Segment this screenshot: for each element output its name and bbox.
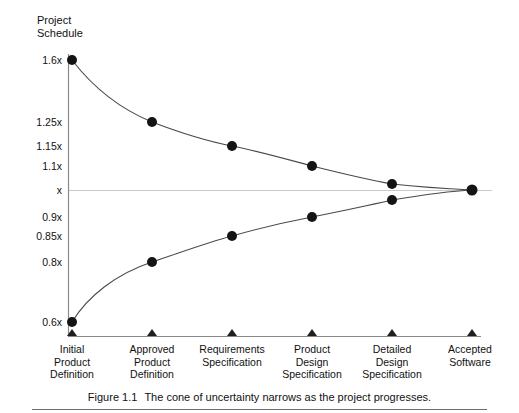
figure-number: Figure 1.1 — [88, 391, 138, 403]
caption-divider — [32, 409, 487, 410]
y-tick-label: x — [0, 185, 62, 196]
data-point — [67, 317, 77, 327]
figure-container: Project Schedule — [0, 0, 519, 413]
y-tick-label: 0.8x — [0, 257, 62, 268]
x-tick-marker — [467, 329, 477, 336]
y-tick-label: 0.9x — [0, 212, 62, 223]
y-tick-label: 0.85x — [0, 231, 62, 242]
data-point — [147, 117, 157, 127]
x-tick-marker — [387, 329, 397, 336]
x-tick-marker — [227, 329, 237, 336]
y-tick-label: 1.6x — [0, 55, 62, 66]
figure-caption-text: The cone of uncertainty narrows as the p… — [144, 391, 431, 403]
data-point — [307, 161, 317, 171]
x-tick-marker — [147, 329, 157, 336]
x-tick-marker — [307, 329, 317, 336]
figure-caption: Figure 1.1The cone of uncertainty narrow… — [0, 391, 519, 403]
y-tick-label: 1.1x — [0, 161, 62, 172]
y-tick-label: 0.6x — [0, 317, 62, 328]
convergence-data-point — [467, 185, 478, 196]
x-axis-tick-markers — [67, 329, 477, 336]
y-tick-label: 1.25x — [0, 117, 62, 128]
data-point — [387, 195, 397, 205]
data-point — [227, 231, 237, 241]
lower-bound-curve — [72, 190, 472, 322]
data-point — [387, 179, 397, 189]
y-tick-label: 1.15x — [0, 141, 62, 152]
data-point — [307, 212, 317, 222]
lower-bound-points — [67, 195, 397, 327]
upper-bound-curve — [72, 60, 472, 190]
x-category-label: Accepted Software — [415, 343, 519, 368]
data-point — [227, 141, 237, 151]
data-point — [67, 55, 77, 65]
upper-bound-points — [67, 55, 397, 189]
data-point — [147, 257, 157, 267]
